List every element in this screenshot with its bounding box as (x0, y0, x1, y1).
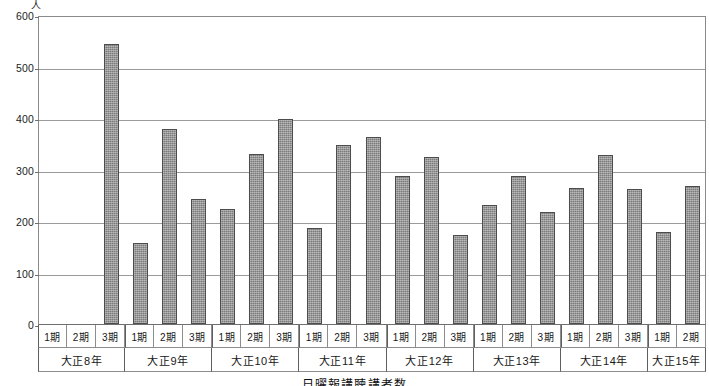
bar (656, 232, 671, 324)
bar (482, 205, 497, 324)
y-tick-label: 100 (0, 269, 34, 279)
x-axis-year-label: 大正9年 (125, 348, 212, 372)
x-axis-year-label: 大正11年 (299, 348, 386, 372)
y-tick-label: 500 (0, 63, 34, 73)
x-axis-period-label: 1期 (387, 325, 416, 348)
x-axis-year-label: 大正10年 (212, 348, 299, 372)
x-axis-period-label: 1期 (38, 325, 67, 348)
bar (336, 145, 351, 324)
y-tick-label: 200 (0, 217, 34, 227)
bar (598, 155, 613, 324)
x-axis-period-label: 1期 (125, 325, 154, 348)
bar (424, 157, 439, 324)
bar (162, 129, 177, 324)
bar (540, 212, 555, 324)
x-axis-period-label: 3期 (270, 325, 299, 348)
x-axis-period-label: 3期 (532, 325, 561, 348)
x-axis-period-label: 1期 (474, 325, 503, 348)
bar (511, 176, 526, 324)
x-axis-period-label: 2期 (503, 325, 532, 348)
chart-caption: 日曜報講聴講者数 (0, 375, 709, 386)
x-axis-period-label: 3期 (619, 325, 648, 348)
x-axis-period-label: 2期 (67, 325, 96, 348)
bar (220, 209, 235, 324)
bars-layer (39, 17, 705, 324)
bar (249, 154, 264, 324)
bar (627, 189, 642, 324)
x-axis: 1期2期3期1期2期3期1期2期3期1期2期3期1期2期3期1期2期3期1期2期… (38, 325, 706, 372)
x-axis-period-label: 1期 (561, 325, 590, 348)
bar (453, 235, 468, 324)
x-axis-period-label: 3期 (357, 325, 386, 348)
bar (191, 199, 206, 324)
x-axis-period-label: 2期 (241, 325, 270, 348)
y-tick-label: 400 (0, 114, 34, 124)
y-tick-label: 600 (0, 11, 34, 21)
x-axis-year-label: 大正13年 (474, 348, 561, 372)
bar (395, 176, 410, 324)
x-axis-year-label: 大正15年 (648, 348, 706, 372)
bar-chart: 人 6005004003002001000 1期2期3期1期2期3期1期2期3期… (0, 0, 709, 386)
x-axis-period-label: 2期 (154, 325, 183, 348)
y-tick-label: 300 (0, 166, 34, 176)
x-axis-year-label: 大正12年 (387, 348, 474, 372)
x-axis-period-label: 1期 (212, 325, 241, 348)
y-tick-label: 0 (0, 320, 34, 330)
x-axis-year-row: 大正8年大正9年大正10年大正11年大正12年大正13年大正14年大正15年 (38, 348, 706, 372)
x-axis-period-label: 3期 (183, 325, 212, 348)
x-axis-period-label: 2期 (590, 325, 619, 348)
x-axis-period-label: 1期 (648, 325, 677, 348)
plot-area (38, 16, 706, 325)
bar (104, 44, 119, 324)
bar (569, 188, 584, 324)
y-axis-labels: 6005004003002001000 (0, 0, 34, 386)
x-axis-period-label: 2期 (328, 325, 357, 348)
x-axis-period-label: 2期 (677, 325, 706, 348)
x-axis-period-label: 3期 (445, 325, 474, 348)
x-axis-period-label: 2期 (416, 325, 445, 348)
bar (133, 243, 148, 324)
bar (366, 137, 381, 324)
x-axis-period-label: 1期 (299, 325, 328, 348)
x-axis-period-row: 1期2期3期1期2期3期1期2期3期1期2期3期1期2期3期1期2期3期1期2期… (38, 325, 706, 348)
x-axis-period-label: 3期 (96, 325, 125, 348)
x-axis-year-label: 大正8年 (38, 348, 125, 372)
bar (278, 119, 293, 324)
bar (307, 228, 322, 324)
x-axis-year-label: 大正14年 (561, 348, 648, 372)
bar (685, 186, 700, 324)
